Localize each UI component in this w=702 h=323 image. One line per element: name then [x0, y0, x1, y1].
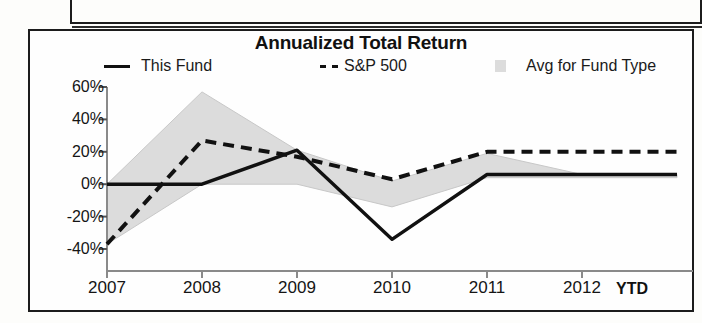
x-tick-label: 2009 — [278, 278, 316, 298]
plot-area — [30, 31, 696, 314]
y-tick-label: 60% — [72, 78, 104, 96]
plot-svg — [30, 31, 696, 314]
y-tick-label: 40% — [72, 110, 104, 128]
y-axis-tick-labels: 60%40%20%0%-20%-40% — [42, 31, 104, 314]
y-tick-label: -20% — [67, 208, 104, 226]
annualized-total-return-chart: Annualized Total Return This Fund S&P 50… — [28, 29, 694, 312]
ytd-annotation: YTD — [616, 280, 648, 298]
x-tick-label: 2008 — [183, 278, 221, 298]
x-tick-label: 2010 — [373, 278, 411, 298]
x-axis-tick-labels: 200720082009201020112012 — [30, 278, 696, 308]
x-tick-label: 2012 — [563, 278, 601, 298]
page-box-fragment — [70, 0, 702, 24]
y-tick-label: 0% — [81, 175, 104, 193]
x-tick-label: 2011 — [469, 278, 506, 298]
y-tick-label: -40% — [67, 240, 104, 258]
x-tick-label: 2007 — [88, 278, 126, 298]
y-tick-label: 20% — [72, 143, 104, 161]
